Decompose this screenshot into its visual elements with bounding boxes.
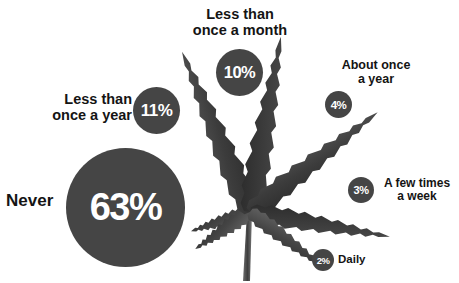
bubble-never[interactable]: 63% bbox=[66, 148, 185, 267]
bubble-less-than-once-a-year[interactable]: 11% bbox=[133, 87, 180, 134]
frequency-of-use-bubble-infographic: 63% Never 11% Less than once a year 10% … bbox=[0, 0, 459, 283]
bubble-about-once-a-year[interactable]: 4% bbox=[325, 91, 352, 118]
bubble-daily[interactable]: 2% bbox=[312, 249, 334, 271]
label-never: Never bbox=[6, 191, 68, 210]
label-about-once-a-year: About once a year bbox=[330, 58, 422, 86]
bubble-a-few-times-a-week[interactable]: 3% bbox=[348, 177, 374, 203]
bubble-less-than-once-a-month[interactable]: 10% bbox=[216, 49, 263, 96]
label-less-than-once-a-year: Less than once a year bbox=[28, 91, 132, 123]
label-daily: Daily bbox=[338, 253, 378, 266]
label-less-than-once-a-month: Less than once a month bbox=[182, 6, 298, 38]
cannabis-leaf-icon bbox=[0, 0, 459, 283]
label-a-few-times-a-week: A few times a week bbox=[377, 177, 457, 204]
